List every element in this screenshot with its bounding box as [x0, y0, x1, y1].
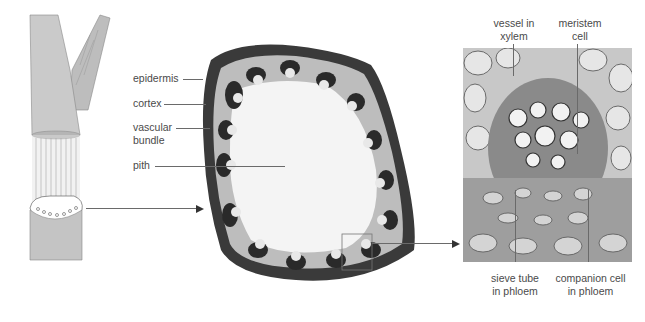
- leader-vascular-bundle: [176, 128, 210, 129]
- stem-cross-section: [196, 40, 426, 290]
- label-vessel-in-xylem-1: vessel in: [484, 17, 544, 30]
- label-vascular-bundle-1: vascular: [133, 121, 172, 134]
- label-companion-cell-2: in phloem: [548, 285, 633, 298]
- label-meristem-cell-2: cell: [550, 30, 610, 43]
- label-sieve-tube-1: sieve tube: [480, 272, 550, 285]
- label-vascular-bundle-2: bundle: [133, 134, 165, 147]
- leader-epidermis: [183, 79, 203, 80]
- arrow-stem-to-section: [86, 208, 198, 209]
- arrow-section-to-micrograph: [372, 243, 454, 244]
- leader-vessel: [513, 44, 514, 76]
- label-cortex: cortex: [133, 97, 162, 110]
- leader-pith: [155, 166, 285, 167]
- vascular-bundle-micrograph: [463, 48, 632, 262]
- stem-illustration: [10, 10, 120, 270]
- arrowhead-icon: [452, 240, 460, 248]
- label-companion-cell-1: companion cell: [548, 272, 633, 285]
- leader-meristem: [577, 44, 578, 154]
- label-sieve-tube-2: in phloem: [480, 285, 550, 298]
- label-pith: pith: [133, 159, 150, 172]
- leader-cortex: [164, 104, 206, 105]
- leader-companion-cell: [588, 190, 589, 262]
- label-meristem-cell-1: meristem: [550, 17, 610, 30]
- leader-sieve-tube: [515, 190, 516, 262]
- label-epidermis: epidermis: [133, 72, 179, 85]
- label-vessel-in-xylem-2: xylem: [484, 30, 544, 43]
